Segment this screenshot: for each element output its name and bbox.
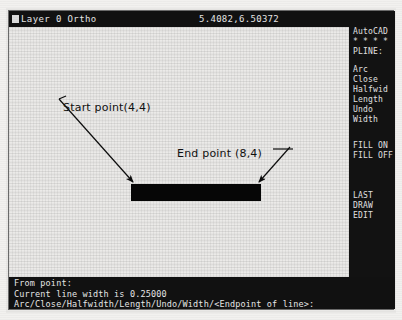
menu-item-halfwid[interactable]: Halfwid xyxy=(349,85,395,95)
status-layer-label: Layer 0 Ortho xyxy=(21,11,97,27)
menu-item-width[interactable]: Width xyxy=(349,115,395,125)
status-bar: Layer 0 Ortho 5.4082,6.50372 xyxy=(9,11,395,27)
drawing-canvas[interactable]: Start point(4,4) End point (8,4) xyxy=(9,27,349,277)
menu-item-length[interactable]: Length xyxy=(349,95,395,105)
polyline-entity[interactable] xyxy=(131,184,261,201)
command-line-history-2: Current line width is 0.25000 xyxy=(9,289,395,300)
menu-title-autocad[interactable]: AutoCAD xyxy=(349,27,395,37)
command-line-history-1: From point: xyxy=(9,278,395,289)
menu-item-arc[interactable]: Arc xyxy=(349,65,395,75)
menu-spacer-2 xyxy=(349,125,395,141)
menu-item-fill-on[interactable]: FILL ON xyxy=(349,141,395,151)
command-line-area[interactable]: From point: Current line width is 0.2500… xyxy=(9,277,395,309)
screenshot-root: Layer 0 Ortho 5.4082,6.50372 xyxy=(0,0,402,320)
annotation-start-point: Start point(4,4) xyxy=(63,101,151,114)
menu-item-fill-off[interactable]: FILL OFF xyxy=(349,151,395,161)
command-line-prompt[interactable]: Arc/Close/Halfwidth/Length/Undo/Width/<E… xyxy=(9,299,395,309)
autocad-window: Layer 0 Ortho 5.4082,6.50372 xyxy=(8,10,394,310)
menu-item-draw[interactable]: DRAW xyxy=(349,201,395,211)
menu-item-close[interactable]: Close xyxy=(349,75,395,85)
menu-item-edit[interactable]: EDIT xyxy=(349,211,395,221)
menu-separator: * * * * xyxy=(349,37,395,47)
menu-spacer-3 xyxy=(349,161,395,191)
layer-color-swatch xyxy=(12,15,19,23)
annotation-end-point: End point (8,4) xyxy=(177,147,262,160)
menu-item-undo[interactable]: Undo xyxy=(349,105,395,115)
menu-item-last[interactable]: LAST xyxy=(349,191,395,201)
status-coordinate-readout: 5.4082,6.50372 xyxy=(199,11,279,27)
menu-spacer-1 xyxy=(349,57,395,65)
screen-menu[interactable]: AutoCAD * * * * PLINE: Arc Close Halfwid… xyxy=(349,27,395,277)
menu-active-command-pline[interactable]: PLINE: xyxy=(349,47,395,57)
